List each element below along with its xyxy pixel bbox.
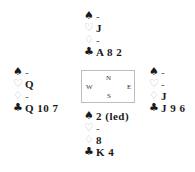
club-icon: ♣ [84, 146, 96, 158]
east-hand: ♠ - ♡ - ♢ J ♣ J 9 6 [149, 66, 186, 114]
south-diamonds-cards: 8 [96, 134, 102, 146]
compass-box: N W E S [81, 70, 135, 103]
north-spades-cards: - [96, 10, 100, 22]
west-clubs-cards: Q 10 7 [25, 102, 59, 114]
west-hearts-cards: Q [25, 78, 34, 90]
club-icon: ♣ [149, 102, 161, 114]
south-spades-cards: 2 (led) [96, 110, 129, 122]
east-clubs-cards: J 9 6 [161, 102, 186, 114]
west-hand: ♠ - ♡ Q ♢ - ♣ Q 10 7 [13, 66, 59, 114]
club-icon: ♣ [13, 102, 25, 114]
east-spades-cards: - [161, 66, 165, 78]
north-clubs-row: ♣ A 8 2 [84, 46, 122, 58]
club-icon: ♣ [84, 46, 96, 58]
west-spades-cards: - [25, 66, 29, 78]
south-hearts-cards: - [96, 122, 100, 134]
west-diamonds-cards: - [25, 90, 29, 102]
north-hearts-cards: J [96, 22, 102, 34]
compass-north-label: N [106, 74, 111, 82]
south-clubs-row: ♣ K 4 [84, 146, 129, 158]
east-clubs-row: ♣ J 9 6 [149, 102, 186, 114]
north-clubs-cards: A 8 2 [96, 46, 122, 58]
north-diamonds-cards: - [96, 34, 100, 46]
east-hearts-cards: - [161, 78, 165, 90]
compass-south-label: S [107, 92, 111, 100]
compass-west-label: W [86, 83, 93, 91]
compass-east-label: E [127, 83, 131, 91]
south-hand: ♠ 2 (led) ♡ - ♢ 8 ♣ K 4 [84, 110, 129, 158]
north-hand: ♠ - ♡ J ♢ - ♣ A 8 2 [84, 10, 122, 58]
east-diamonds-cards: J [161, 90, 167, 102]
west-clubs-row: ♣ Q 10 7 [13, 102, 59, 114]
south-clubs-cards: K 4 [96, 146, 114, 158]
